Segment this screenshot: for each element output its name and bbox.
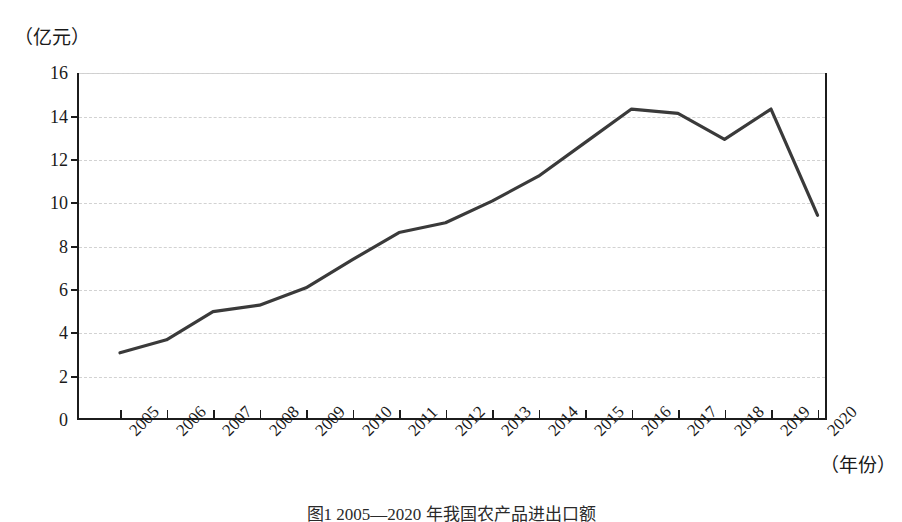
y-tick-label-2: 2 <box>59 368 68 386</box>
y-tick-label-12: 12 <box>50 151 68 169</box>
y-tick-label-0: 0 <box>59 411 68 429</box>
plot-area: 0246810121416 20052006200720082009201020… <box>77 73 827 420</box>
y-axis-unit-label: （亿元） <box>14 22 90 49</box>
series-polyline <box>120 109 818 353</box>
line-chart-figure: （亿元） 0246810121416 200520062007200820092… <box>0 0 902 522</box>
y-tick-label-16: 16 <box>50 64 68 82</box>
y-tick-label-6: 6 <box>59 281 68 299</box>
y-tick-label-14: 14 <box>50 108 68 126</box>
x-tick-label-2020: 2020 <box>824 403 860 439</box>
data-line-series <box>77 73 827 420</box>
y-tick-label-10: 10 <box>50 194 68 212</box>
figure-caption: 图1 2005—2020 年我国农产品进出口额 <box>0 500 902 522</box>
x-axis-unit-label: （年份） <box>820 450 896 477</box>
y-tick-label-4: 4 <box>59 324 68 342</box>
y-tick-label-8: 8 <box>59 238 68 256</box>
